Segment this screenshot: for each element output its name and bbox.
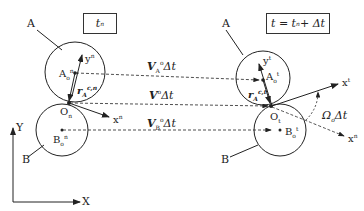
right-point-A: Aot [266, 71, 279, 84]
right-time-tail: + Δt [300, 17, 325, 30]
right-contact-point: Ot [270, 112, 281, 124]
left-r-vector: rAc,n [77, 85, 97, 98]
left-body-A-label: A [27, 18, 35, 29]
left-point-B: Bon [53, 134, 68, 147]
right-time-box: t = tn + Δt [266, 13, 330, 34]
right-r-vector: rAc,t [248, 89, 266, 102]
global-axis-Y: Y [16, 122, 23, 133]
right-point-B: Bot [285, 126, 298, 139]
left-time-sub: n [100, 20, 104, 27]
displacement-VA: VAoΔt [147, 60, 176, 74]
left-axis-y: yn [85, 53, 95, 64]
left-contact-point: On [60, 107, 72, 119]
right-body-B-label: B [221, 154, 229, 165]
right-axis-x-old: xn [348, 133, 358, 144]
right-body-A-label: A [222, 18, 230, 29]
displacement-VB: VBoΔt [147, 117, 176, 131]
global-axis-X: X [82, 196, 90, 207]
rotation-label: ΩoΔt [322, 110, 347, 123]
left-point-A: Aon [59, 68, 74, 81]
left-body-B-label: B [22, 154, 30, 165]
left-axis-x: xn [113, 114, 123, 125]
displacement-V: VoΔt [149, 89, 174, 101]
right-time-label: t = t [271, 17, 296, 30]
right-axis-x: xt [342, 77, 350, 88]
right-axis-y: yt [263, 55, 271, 66]
left-time-box: tn [83, 13, 117, 34]
